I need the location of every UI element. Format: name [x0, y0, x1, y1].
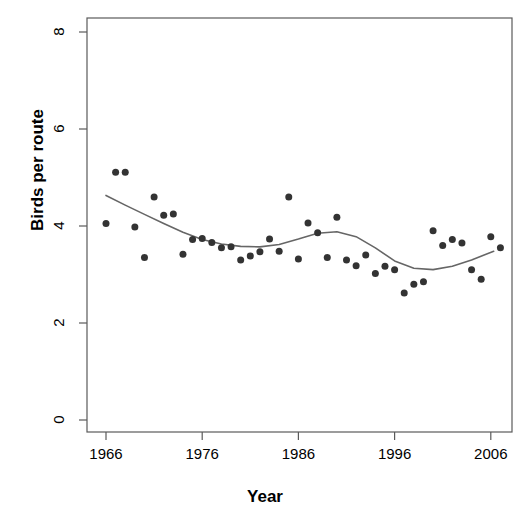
data-point [305, 220, 312, 227]
data-point [295, 255, 302, 262]
data-point [228, 243, 235, 250]
data-point [458, 239, 465, 246]
data-point [131, 223, 138, 230]
x-tick-label-1976: 1976 [172, 445, 232, 462]
data-point [276, 248, 283, 255]
data-point [218, 244, 225, 251]
x-tick-label-2006: 2006 [461, 445, 521, 462]
data-point [497, 244, 504, 251]
data-point [449, 236, 456, 243]
data-point [285, 193, 292, 200]
data-point [189, 236, 196, 243]
data-point [487, 233, 494, 240]
y-tick-label-0: 0 [50, 405, 67, 435]
data-point [266, 236, 273, 243]
data-point [256, 248, 263, 255]
data-point [112, 169, 119, 176]
data-point [391, 266, 398, 273]
data-point [343, 256, 350, 263]
data-point [420, 278, 427, 285]
data-point [151, 193, 158, 200]
data-point [410, 281, 417, 288]
data-point [208, 239, 215, 246]
chart-figure: Birds per route Year 0246819661976198619… [0, 0, 530, 520]
y-tick-label-2: 2 [50, 308, 67, 338]
y-tick-label-4: 4 [50, 211, 67, 241]
data-point [314, 229, 321, 236]
data-point [381, 263, 388, 270]
x-tick-label-1966: 1966 [76, 445, 136, 462]
data-point [401, 289, 408, 296]
x-tick-label-1986: 1986 [268, 445, 328, 462]
data-point [141, 254, 148, 261]
data-point [333, 214, 340, 221]
y-tick-label-6: 6 [50, 114, 67, 144]
data-point [439, 242, 446, 249]
x-tick-label-1996: 1996 [365, 445, 425, 462]
data-point [468, 266, 475, 273]
y-tick-label-8: 8 [50, 17, 67, 47]
plot-canvas [0, 0, 530, 520]
data-point [372, 270, 379, 277]
data-point [353, 262, 360, 269]
data-point [199, 235, 206, 242]
data-point [430, 227, 437, 234]
data-point [237, 256, 244, 263]
data-point [103, 220, 110, 227]
data-point [324, 254, 331, 261]
data-point [122, 169, 129, 176]
plot-box [87, 18, 512, 432]
data-point [478, 276, 485, 283]
data-point [179, 251, 186, 258]
data-point [247, 253, 254, 260]
data-point [362, 252, 369, 259]
data-point [160, 212, 167, 219]
data-point [170, 210, 177, 217]
